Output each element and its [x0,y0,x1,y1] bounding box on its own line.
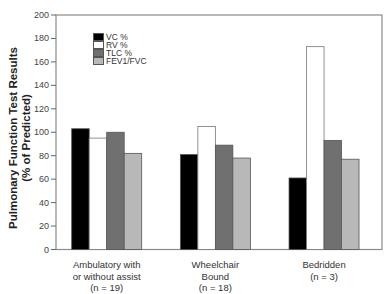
y-axis-title-line1: Pulmonary Function Test Results [7,47,20,229]
bar-vc [180,155,198,250]
legend-item-fev1-fvc: FEV1/FVC [93,57,147,65]
bar-rv [198,126,216,249]
legend-label-fev1-fvc: FEV1/FVC [106,56,147,66]
bar-vc [72,129,90,250]
legend-swatch-vc [93,33,104,41]
legend: VC % RV % TLC % FEV1/FVC [93,33,147,65]
y-tick-label: 200 [25,10,49,20]
x-category-label: Bedridden(n = 3) [302,259,345,282]
legend-swatch-rv [93,41,104,49]
bar-vc [289,178,307,250]
bar-tlc [107,132,125,249]
y-axis-title-line2: (% of Predicted) [20,47,33,229]
bars [72,47,359,250]
y-axis-title: Pulmonary Function Test Results (% of Pr… [7,47,33,229]
bar-fev1-fvc [233,158,251,249]
legend-swatch-fev1-fvc [93,57,104,65]
x-category-label: Ambulatory withor without assist(n = 19) [73,259,141,294]
bar-chart [0,0,392,294]
bar-fev1-fvc [124,153,142,249]
bar-rv [307,47,325,250]
y-tick-label: 180 [25,33,49,43]
bar-rv [89,138,107,249]
y-axis-ticks [51,15,56,250]
bar-tlc [324,140,342,249]
x-category-label: WheelchairBound(n = 18) [192,259,240,294]
y-tick-label: 0 [25,245,49,255]
bar-tlc [215,145,233,249]
bar-fev1-fvc [342,159,360,249]
legend-swatch-tlc [93,49,104,57]
